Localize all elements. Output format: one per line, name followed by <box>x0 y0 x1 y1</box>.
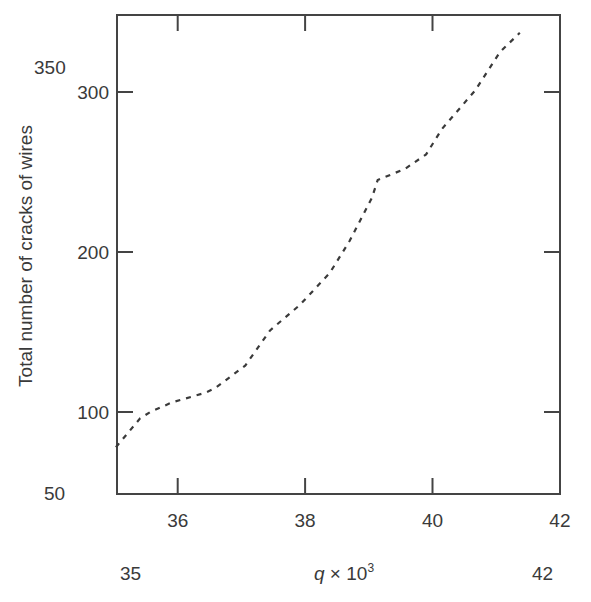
x-tick-label: 42 <box>549 510 570 531</box>
y-min-label: 50 <box>44 483 65 504</box>
x-tick-label: 38 <box>295 510 316 531</box>
y-tick-label: 200 <box>77 242 109 263</box>
y-max-label: 350 <box>34 57 66 78</box>
y-axis-title: Total number of cracks of wires <box>15 125 36 387</box>
axis-ticks <box>117 15 560 494</box>
y-tick-label: 100 <box>77 402 109 423</box>
x-axis-title: q × 103 <box>314 561 374 584</box>
tick-labels: 36384042100200300 <box>77 82 570 531</box>
data-line <box>116 33 520 447</box>
chart: 36384042100200300 350 50 35 42 q × 103 T… <box>0 0 591 602</box>
y-tick-label: 300 <box>77 82 109 103</box>
x-tick-label: 36 <box>167 510 188 531</box>
plot-frame <box>117 15 560 494</box>
x-max-label: 42 <box>532 563 553 584</box>
x-tick-label: 40 <box>422 510 443 531</box>
x-min-label: 35 <box>120 563 141 584</box>
